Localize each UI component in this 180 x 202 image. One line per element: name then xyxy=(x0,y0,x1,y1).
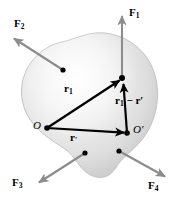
physics-figure-rigid-body: F1 F2 F3 F4 r1 r′ r1 − r′ O O′ xyxy=(0,0,180,202)
force-label-F4-sub: 4 xyxy=(155,184,159,193)
vector-label-rprime: r′ xyxy=(70,132,77,144)
point-dot-P xyxy=(119,75,125,81)
force-label-F1-sub: 1 xyxy=(136,11,140,20)
force-label-F3: F3 xyxy=(12,177,22,189)
force-label-F4: F4 xyxy=(148,180,158,192)
force-label-F4-main: F xyxy=(148,179,155,191)
point-label-O: O xyxy=(33,120,41,131)
application-dot-F3 xyxy=(82,150,87,155)
force-label-F1: F1 xyxy=(129,7,139,19)
vector-label-r1-minus-rprime: r1 − r′ xyxy=(115,95,143,107)
force-arrow-F3 xyxy=(39,153,85,183)
vector-label-r1: r1 xyxy=(64,83,73,95)
vector-label-r1-sub: 1 xyxy=(69,87,73,96)
point-dot-O-prime xyxy=(124,130,130,136)
force-label-F3-main: F xyxy=(12,176,19,188)
point-dot-O xyxy=(44,125,50,131)
force-label-F3-sub: 3 xyxy=(19,181,23,190)
force-label-F1-main: F xyxy=(129,6,136,18)
point-label-O-prime: O′ xyxy=(133,124,143,135)
vector-label-rprime-suffix: ′ xyxy=(75,136,77,145)
force-label-F2-main: F xyxy=(14,17,21,29)
force-arrow-F4 xyxy=(119,151,165,177)
vector-label-diff-suffix: − r′ xyxy=(124,94,144,106)
application-dot-F2 xyxy=(60,67,65,72)
force-label-F2-sub: 2 xyxy=(21,22,25,31)
application-dot-F4 xyxy=(116,148,121,153)
force-label-F2: F2 xyxy=(14,18,24,30)
figure-canvas xyxy=(0,0,180,202)
